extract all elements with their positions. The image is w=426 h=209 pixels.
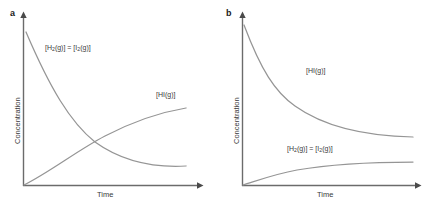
panel-b: b Concentration Time [HI(g)] [H2(g)] = (213, 0, 426, 209)
panel-a-product-label: [HI(g)] (156, 91, 175, 98)
panel-a-x-axis-title: Time (97, 190, 113, 199)
panel-a-y-axis-title: Concentration (13, 97, 22, 144)
panel-a-curve-reactants (26, 32, 186, 166)
panel-a-reactants-label: [H2(g)] = [I2(g)] (45, 44, 91, 51)
panel-b-x-axis-title: Time (317, 190, 333, 199)
equilibrium-concentration-figure: a Concentration Time [H2(g)] = [I2(g)] (0, 0, 426, 209)
panel-a: a Concentration Time [H2(g)] = [I2(g)] (0, 0, 213, 209)
panel-b-plot (213, 0, 426, 209)
panel-b-curve-products (243, 162, 413, 185)
panel-a-plot (0, 0, 213, 209)
panel-b-reactant-label: [HI(g)] (306, 67, 325, 74)
panel-a-curve-product (24, 108, 186, 185)
panel-b-products-label: [H2(g)] = [I2(g)] (287, 145, 333, 152)
panel-b-y-axis-title: Concentration (232, 97, 241, 144)
panel-b-curve-reactant (244, 25, 413, 137)
